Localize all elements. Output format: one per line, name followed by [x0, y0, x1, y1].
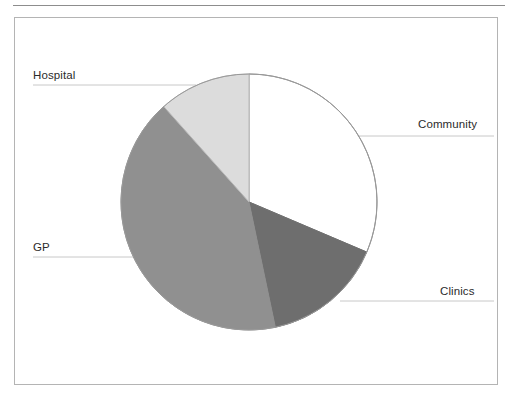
pie-chart-graphic [0, 0, 514, 401]
pie-label-gp: GP [33, 241, 50, 254]
pie-label-hospital: Hospital [33, 69, 75, 82]
pie-label-community: Community [418, 118, 477, 131]
pie-label-clinics: Clinics [440, 285, 475, 298]
pie-slices [121, 74, 377, 330]
pie-chart-figure: Hospital Community GP Clinics [0, 0, 514, 401]
